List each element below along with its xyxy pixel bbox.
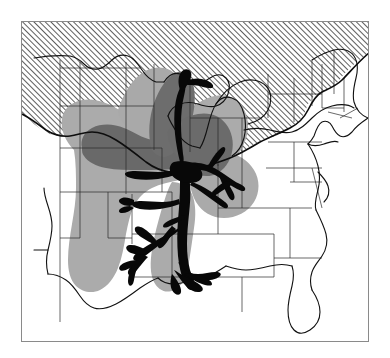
figure-root	[0, 0, 390, 358]
map-frame	[21, 21, 369, 342]
map-svg	[22, 22, 369, 342]
